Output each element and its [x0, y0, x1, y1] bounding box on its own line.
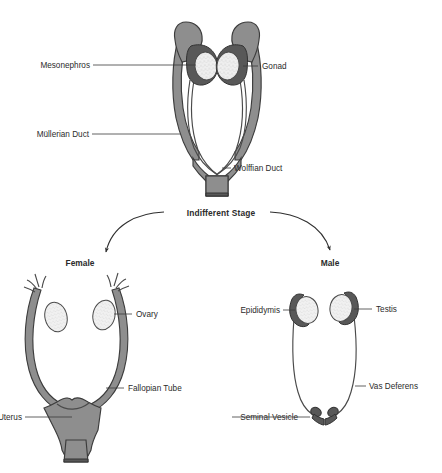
label-mesonephros: Mesonephros	[40, 61, 196, 70]
male-figure: Epididymis Testis Vas Deferens Seminal V…	[232, 292, 418, 425]
male-heading-text: Male	[321, 258, 340, 268]
label-ovary-text: Ovary	[136, 310, 159, 319]
label-gonad: Gonad	[243, 62, 287, 71]
sexual-differentiation-diagram: Mesonephros Gonad Müllerian Duct Wolffia…	[0, 0, 442, 473]
wolffian-duct-right-edge	[216, 80, 242, 175]
vas-deferens-left	[293, 318, 313, 415]
branch-heading-female: Female	[66, 258, 95, 268]
arc-to-male	[270, 212, 330, 250]
indifferent-stage-label: Indifferent Stage	[187, 208, 256, 218]
cervix-opening	[64, 459, 88, 462]
label-mullerian-duct-text: Müllerian Duct	[37, 130, 90, 139]
wolffian-ducts	[188, 80, 247, 175]
label-vas-deferens: Vas Deferens	[355, 382, 418, 391]
label-vas-deferens-text: Vas Deferens	[369, 382, 418, 391]
branch-heading-male: Male	[321, 258, 340, 268]
female-heading-text: Female	[66, 258, 95, 268]
label-mullerian-duct: Müllerian Duct	[37, 130, 180, 139]
label-testis-text: Testis	[376, 305, 397, 314]
arc-to-female	[106, 212, 164, 252]
ovary-left	[42, 300, 71, 334]
label-epididymis-text: Epididymis	[240, 306, 280, 315]
differentiation-arc: Indifferent Stage	[106, 208, 330, 252]
female-figure: Ovary Fallopian Tube Uterus	[0, 273, 182, 462]
label-testis: Testis	[354, 305, 397, 314]
ovary-right	[90, 298, 118, 332]
label-epididymis: Epididymis	[240, 306, 295, 315]
label-gonad-text: Gonad	[262, 62, 287, 71]
diagram-canvas: Mesonephros Gonad Müllerian Duct Wolffia…	[0, 0, 442, 473]
vas-deferens-right	[336, 316, 356, 415]
right-testis-cluster	[328, 292, 359, 325]
label-fallopian-tube-text: Fallopian Tube	[128, 384, 182, 393]
label-mesonephros-text: Mesonephros	[40, 61, 90, 70]
wolffian-duct-left-edge	[192, 80, 218, 175]
indifferent-stage-figure: Mesonephros Gonad Müllerian Duct Wolffia…	[37, 22, 287, 196]
urogenital-sinus-opening	[206, 193, 228, 196]
label-wolffian-duct-text: Wolffian Duct	[234, 164, 283, 173]
label-seminal-vesicle-text: Seminal Vesicle	[240, 413, 298, 422]
label-uterus-text: Uterus	[0, 413, 22, 422]
label-seminal-vesicle: Seminal Vesicle	[232, 413, 310, 422]
